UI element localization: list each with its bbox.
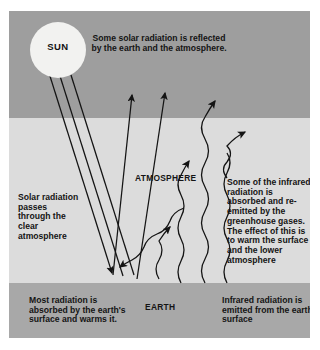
greenhouse-gases-annotation: Some of the infrared radiation is absorb… (227, 178, 310, 265)
sun-label: SUN (30, 41, 86, 52)
infrared-emitted-annotation: Infrared radiation is emitted from the e… (222, 296, 310, 325)
reflected-radiation-annotation: Some solar radiation is reflected by the… (91, 34, 227, 53)
reflected-solar-arrows (113, 93, 165, 279)
solar-passes-annotation: Solar radiation passes through the clear… (18, 193, 80, 242)
greenhouse-effect-diagram: SUN Some solar radiation is reflected by… (9, 11, 310, 338)
re-emitted-up-wave (224, 132, 246, 178)
re-emitted-down-wave (120, 208, 184, 267)
atmosphere-reflected-wave (202, 101, 216, 283)
incoming-solar-rays (49, 73, 134, 276)
atmosphere-label: ATMOSPHERE (135, 174, 196, 183)
absorbed-radiation-annotation: Most radiation is absorbed by the earth'… (29, 296, 137, 325)
earth-label: EARTH (145, 303, 175, 312)
re-emitted-short-up-wave (156, 227, 170, 279)
